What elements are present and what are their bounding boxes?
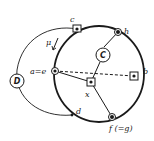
label-c: c — [70, 15, 75, 24]
svg-text:D: D — [14, 77, 21, 86]
svg-text:C: C — [100, 51, 106, 60]
topology-diagram: c h C D a=e b x d f (=g) μ — [0, 0, 154, 141]
label-mu: μ — [46, 38, 51, 47]
node-h[interactable] — [115, 29, 122, 36]
edge-x-f — [91, 82, 112, 117]
mu-arrow-icon — [52, 38, 58, 50]
node-c[interactable] — [73, 25, 81, 32]
label-h: h — [124, 27, 129, 36]
node-a-e[interactable] — [52, 68, 59, 75]
region-label-D: D — [10, 74, 24, 88]
label-f-g: f (=g) — [108, 124, 133, 133]
label-d: d — [76, 107, 81, 116]
node-x[interactable] — [87, 78, 95, 86]
node-f-g[interactable] — [109, 114, 116, 121]
node-d[interactable] — [71, 114, 74, 117]
label-a-e: a=e — [30, 67, 46, 76]
region-label-C: C — [96, 48, 110, 62]
label-b: b — [143, 67, 148, 76]
label-x: x — [85, 90, 90, 99]
node-b[interactable] — [130, 72, 138, 80]
